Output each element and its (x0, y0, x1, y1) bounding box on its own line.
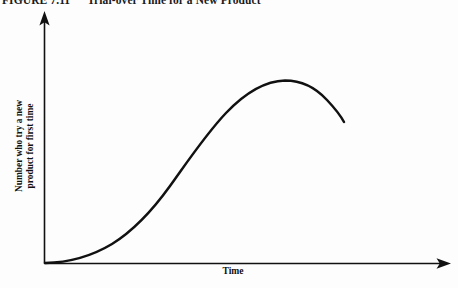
figure-container: FIGURE 7.11Trial-over Time for a New Pro… (0, 0, 458, 288)
y-axis-label: Number who try a new product for first t… (14, 56, 44, 236)
y-axis-label-line-1: Number who try a new (14, 56, 25, 236)
x-axis-label: Time (206, 265, 260, 276)
y-axis-label-line-2: product for first time (25, 56, 36, 236)
trial-curve (45, 81, 344, 264)
plot-area (0, 0, 458, 288)
